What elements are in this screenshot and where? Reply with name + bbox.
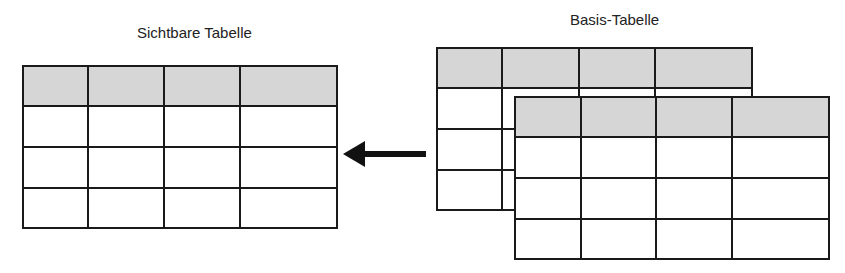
row-divider (24, 146, 336, 148)
row-divider (24, 187, 336, 189)
row-divider (516, 177, 828, 179)
row-divider (438, 87, 751, 89)
column-divider (87, 67, 89, 227)
column-divider (239, 67, 241, 227)
column-divider (580, 98, 582, 258)
column-divider (501, 49, 503, 209)
visible-table-header-row (24, 67, 336, 105)
row-divider (516, 136, 828, 138)
column-divider (731, 98, 733, 258)
visible-table-title: Sichtbare Tabelle (137, 24, 252, 41)
left-arrow-icon (340, 138, 430, 170)
visible-table (22, 65, 338, 229)
column-divider (163, 67, 165, 227)
base-table-back-header-row (438, 49, 751, 87)
column-divider (655, 98, 657, 258)
base-table-front-layer (514, 96, 830, 260)
base-table-front-header-row (516, 98, 828, 136)
row-divider (516, 218, 828, 220)
base-table-title: Basis-Tabelle (570, 11, 659, 28)
row-divider (24, 105, 336, 107)
